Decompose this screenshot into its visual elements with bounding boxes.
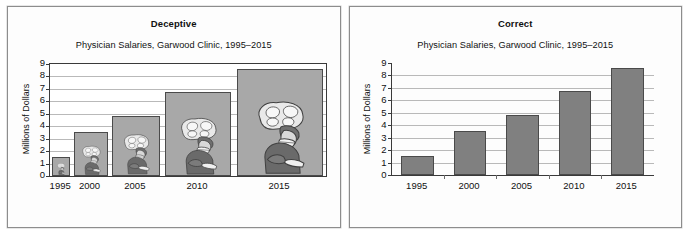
x-tick-label: 2005 (511, 180, 532, 191)
bar (559, 91, 591, 175)
plot-area-deceptive: Millions of Dollars 0123456789 199520002… (8, 63, 340, 223)
y-tick-label: 2 (40, 145, 45, 155)
bar (506, 115, 538, 175)
x-tick-label: 2000 (79, 180, 100, 191)
figure-sheet: Deceptive Physician Salaries, Garwood Cl… (0, 0, 689, 234)
panel-subtitle-deceptive: Physician Salaries, Garwood Clinic, 1995… (8, 40, 340, 50)
x-tick-label: 2005 (124, 180, 145, 191)
panel-correct: Correct Physician Salaries, Garwood Clin… (349, 6, 683, 228)
panel-subtitle-correct: Physician Salaries, Garwood Clinic, 1995… (350, 40, 682, 50)
x-tick-mark (601, 175, 602, 179)
x-axis-labels-deceptive: 19952000200520102015 (8, 180, 340, 196)
x-tick-label: 2000 (459, 180, 480, 191)
x-tick-mark (549, 175, 550, 179)
x-tick-label: 2015 (269, 180, 290, 191)
y-tick-label: 8 (40, 71, 45, 81)
y-tick-mark (388, 175, 392, 176)
panel-heading-deceptive: Deceptive (8, 18, 340, 29)
plot-canvas-deceptive (49, 63, 327, 177)
y-tick-label: 9 (40, 58, 45, 68)
x-tick-label: 2015 (616, 180, 637, 191)
bar-pictogram (112, 116, 160, 176)
y-tick-label: 3 (381, 133, 386, 143)
bar-pictogram (165, 92, 231, 176)
y-axis-ticks-deceptive: 0123456789 (32, 63, 48, 175)
y-tick-label: 4 (40, 120, 45, 130)
bar-pictogram (237, 69, 323, 176)
panel-deceptive: Deceptive Physician Salaries, Garwood Cl… (7, 6, 341, 228)
y-tick-label: 1 (381, 158, 386, 168)
physician-pictogram-icon (75, 145, 107, 175)
x-axis-labels-correct: 19952000200520102015 (350, 180, 682, 196)
bar-pictogram (74, 132, 108, 176)
physician-pictogram-icon (113, 133, 159, 175)
physician-pictogram-icon (53, 163, 69, 175)
plot-area-correct: Millions of Dollars 0123456789 199520002… (350, 63, 682, 223)
bar-series-correct (392, 63, 654, 175)
bar-series-deceptive (50, 64, 326, 176)
y-tick-label: 2 (381, 145, 386, 155)
bar (454, 131, 486, 175)
y-tick-label: 6 (381, 96, 386, 106)
plot-canvas-correct (391, 63, 654, 176)
y-tick-label: 8 (381, 71, 386, 81)
x-tick-label: 1995 (50, 180, 71, 191)
panel-heading-correct: Correct (350, 18, 682, 29)
x-tick-mark (496, 175, 497, 179)
y-tick-label: 7 (40, 83, 45, 93)
bar-pictogram (52, 157, 70, 176)
y-tick-label: 0 (40, 170, 45, 180)
y-axis-label-text: Millions of Dollars (363, 84, 373, 155)
x-tick-label: 2010 (186, 180, 207, 191)
y-tick-label: 0 (381, 170, 386, 180)
y-axis-ticks-correct: 0123456789 (374, 63, 390, 175)
y-axis-label-text: Millions of Dollars (21, 84, 31, 155)
y-tick-label: 7 (381, 83, 386, 93)
y-tick-label: 3 (40, 133, 45, 143)
y-tick-label: 5 (40, 108, 45, 118)
x-tick-label: 2010 (563, 180, 584, 191)
y-tick-label: 1 (40, 158, 45, 168)
physician-pictogram-icon (238, 99, 322, 175)
y-tick-label: 4 (381, 120, 386, 130)
x-tick-label: 1995 (406, 180, 427, 191)
physician-pictogram-icon (166, 116, 230, 175)
bar (611, 68, 643, 175)
y-tick-mark (46, 176, 50, 177)
y-tick-label: 9 (381, 58, 386, 68)
bar (401, 156, 433, 175)
x-tick-mark (444, 175, 445, 179)
y-tick-label: 6 (40, 96, 45, 106)
y-tick-label: 5 (381, 108, 386, 118)
